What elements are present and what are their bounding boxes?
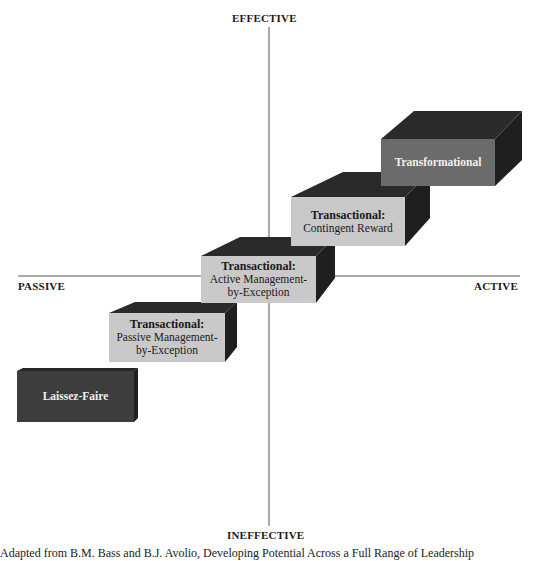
block-label-passive-mbe: Transactional: Passive Management- by-Ex… [109,313,225,362]
block-title: Laissez-Faire [43,390,109,403]
block-label-active-mbe: Transactional: Active Management- by-Exc… [201,256,316,303]
block-title: Transactional: [221,260,295,273]
block-label-contingent-reward: Transactional: Contingent Reward [291,197,405,246]
axis-label-effective: EFFECTIVE [232,12,297,24]
axis-label-passive: PASSIVE [18,280,65,292]
block-title: Transactional: [130,318,204,331]
block-subtitle: Contingent Reward [303,222,393,235]
block-label-transformational: Transformational [381,139,495,186]
block-subtitle: Active Management- by-Exception [210,273,307,299]
block-label-laissez-faire: Laissez-Faire [17,371,134,422]
figure-caption: Adapted from B.M. Bass and B.J. Avolio, … [0,546,474,561]
axis-label-active: ACTIVE [474,280,518,292]
block-title: Transactional: [311,209,385,222]
block-subtitle: Passive Management- by-Exception [116,331,217,357]
block-title: Transformational [395,156,482,169]
axis-label-ineffective: INEFFECTIVE [227,529,304,541]
